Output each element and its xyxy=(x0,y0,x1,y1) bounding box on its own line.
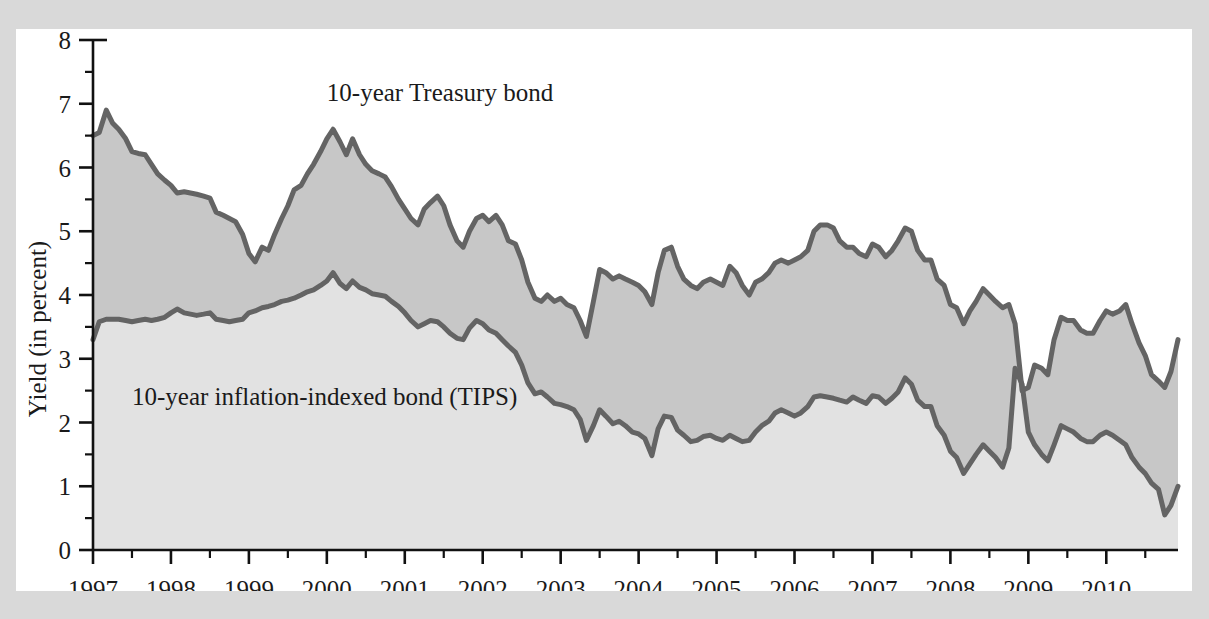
y-tick-label-8: 8 xyxy=(59,29,72,54)
y-tick-label-6: 6 xyxy=(59,155,72,182)
x-tick-label-2007: 2007 xyxy=(847,576,897,591)
y-tick-label-2: 2 xyxy=(59,410,72,437)
x-tick-label-2003: 2003 xyxy=(536,576,586,591)
x-tick-label-2005: 2005 xyxy=(692,576,742,591)
x-tick-label-1997: 1997 xyxy=(68,576,118,591)
x-tick-label-2002: 2002 xyxy=(458,576,508,591)
y-tick-label-7: 7 xyxy=(59,91,72,118)
x-tick-label-2001: 2001 xyxy=(380,576,430,591)
y-tick-label-4: 4 xyxy=(59,282,72,309)
x-tick-label-1999: 1999 xyxy=(224,576,274,591)
x-tick-label-2009: 2009 xyxy=(1003,576,1053,591)
chart-figure: 0123456781997199819992000200120022003200… xyxy=(16,29,1192,591)
x-tick-label-2008: 2008 xyxy=(925,576,975,591)
y-tick-label-3: 3 xyxy=(59,346,72,373)
x-tick-label-1998: 1998 xyxy=(146,576,196,591)
y-tick-label-5: 5 xyxy=(59,218,72,245)
x-tick-label-2004: 2004 xyxy=(614,576,665,591)
y-tick-label-0: 0 xyxy=(59,537,72,564)
yield-chart-svg: 0123456781997199819992000200120022003200… xyxy=(16,29,1192,591)
y-axis-title: Yield (in percent) xyxy=(24,241,52,417)
x-tick-label-2006: 2006 xyxy=(770,576,820,591)
tips-series-label: 10-year inflation-indexed bond (TIPS) xyxy=(132,383,517,411)
y-tick-label-1: 1 xyxy=(59,473,72,500)
x-tick-label-2010: 2010 xyxy=(1081,576,1131,591)
x-tick-label-2000: 2000 xyxy=(302,576,352,591)
treasury-series-label: 10-year Treasury bond xyxy=(327,79,554,106)
